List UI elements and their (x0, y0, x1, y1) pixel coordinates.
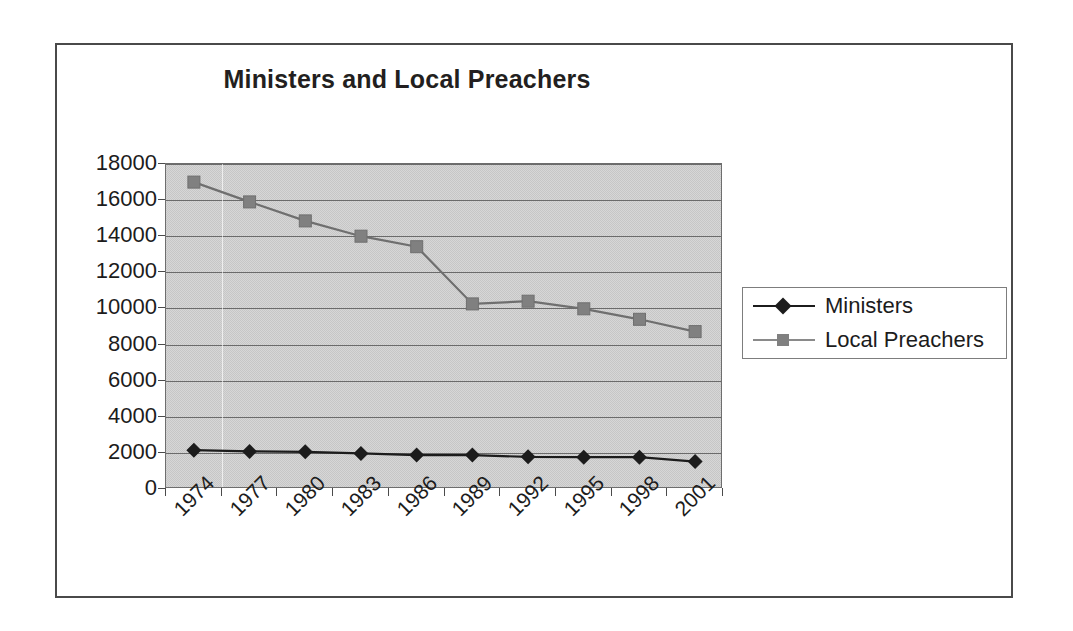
square-data-marker (411, 241, 423, 253)
y-tick-mark (158, 163, 165, 164)
diamond-data-marker (521, 449, 536, 464)
series-overlay (166, 164, 723, 489)
y-tick-label: 4000 (108, 403, 157, 429)
y-tick-label: 14000 (96, 222, 157, 248)
chart-frame: Ministers and Local Preachers 1800016000… (55, 43, 1013, 598)
legend-label-local-preachers: Local Preachers (825, 327, 984, 353)
y-tick-mark (158, 235, 165, 236)
square-data-marker (299, 215, 311, 227)
x-tick-mark (221, 488, 222, 496)
diamond-data-marker (298, 444, 313, 459)
series-line-ministers (194, 450, 695, 461)
x-axis: 1974197719801983198619891992199519982001 (165, 488, 722, 598)
series-line-local-preachers (194, 182, 695, 332)
chart-title: Ministers and Local Preachers (57, 65, 757, 94)
y-tick-mark (158, 199, 165, 200)
diamond-data-marker (688, 454, 703, 469)
y-tick-mark (158, 344, 165, 345)
y-tick-mark (158, 380, 165, 381)
y-tick-mark (158, 452, 165, 453)
diamond-data-marker (186, 443, 201, 458)
square-data-marker (188, 176, 200, 188)
x-tick-mark (444, 488, 445, 496)
diamond-data-marker (465, 448, 480, 463)
square-data-marker (689, 326, 701, 338)
legend-label-ministers: Ministers (825, 293, 913, 319)
x-tick-mark (722, 488, 723, 496)
square-data-marker (522, 295, 534, 307)
y-tick-label: 6000 (108, 367, 157, 393)
diamond-data-marker (632, 450, 647, 465)
square-data-marker (355, 230, 367, 242)
chart-legend: Ministers Local Preachers (742, 287, 1007, 359)
y-axis: 1800016000140001200010000800060004000200… (57, 88, 157, 631)
y-tick-label: 0 (145, 475, 157, 501)
diamond-data-marker (242, 444, 257, 459)
x-tick-mark (611, 488, 612, 496)
square-data-marker (634, 313, 646, 325)
y-tick-label: 16000 (96, 186, 157, 212)
y-tick-label: 12000 (96, 258, 157, 284)
y-tick-mark (158, 271, 165, 272)
diamond-data-marker (353, 446, 368, 461)
legend-item-ministers[interactable]: Ministers (753, 288, 913, 324)
square-data-marker (244, 196, 256, 208)
x-tick-mark (499, 488, 500, 496)
x-tick-mark (555, 488, 556, 496)
diamond-marker-icon (775, 298, 792, 315)
y-tick-label: 2000 (108, 439, 157, 465)
y-tick-label: 10000 (96, 294, 157, 320)
square-marker-icon (777, 334, 789, 346)
x-tick-mark (388, 488, 389, 496)
square-data-marker (466, 298, 478, 310)
x-tick-mark (332, 488, 333, 496)
legend-swatch-ministers (753, 296, 815, 316)
legend-item-local-preachers[interactable]: Local Preachers (753, 322, 984, 358)
square-data-marker (578, 303, 590, 315)
y-tick-label: 18000 (96, 150, 157, 176)
plot-area (165, 163, 722, 488)
x-tick-mark (276, 488, 277, 496)
legend-swatch-local-preachers (753, 330, 815, 350)
diamond-data-marker (409, 448, 424, 463)
x-tick-mark (165, 488, 166, 496)
y-tick-mark (158, 416, 165, 417)
y-tick-mark (158, 307, 165, 308)
diamond-data-marker (576, 450, 591, 465)
y-tick-label: 8000 (108, 331, 157, 357)
x-tick-mark (666, 488, 667, 496)
y-tick-mark (158, 488, 165, 489)
